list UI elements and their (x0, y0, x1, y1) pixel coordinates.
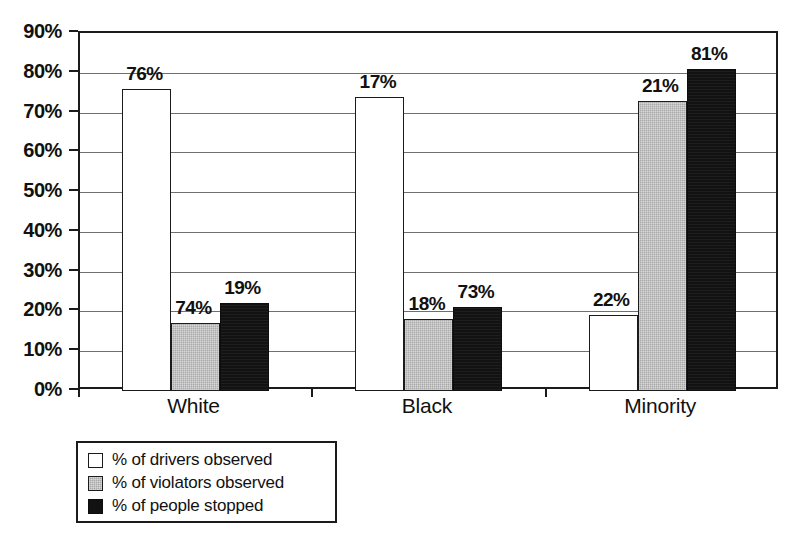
y-tick-mark (69, 110, 78, 112)
y-tick-label: 50% (23, 179, 62, 202)
y-tick-label: 80% (23, 59, 62, 82)
legend-swatch-white-square (88, 453, 103, 468)
bar (220, 303, 269, 391)
bar-value-label: 19% (224, 277, 261, 299)
y-tick-label: 20% (23, 298, 62, 321)
bar-value-label: 81% (691, 43, 728, 65)
legend-item-label: % of drivers observed (112, 450, 272, 470)
y-tick-mark (69, 269, 78, 271)
bar-value-label: 76% (126, 63, 163, 85)
bar (589, 315, 638, 391)
bar (687, 69, 736, 391)
gridline (80, 73, 776, 74)
x-category-label: Minority (624, 394, 696, 418)
y-tick-mark (69, 308, 78, 310)
y-tick-mark (69, 189, 78, 191)
legend-item-label: % of violators observed (112, 473, 284, 493)
bar-value-label: 22% (593, 289, 630, 311)
x-category-label: White (167, 394, 220, 418)
y-tick-mark (69, 388, 78, 390)
x-tick-mark (78, 389, 80, 397)
y-tick-mark (69, 30, 78, 32)
bar-value-label: 21% (642, 75, 679, 97)
bar (122, 89, 171, 391)
y-tick-label: 70% (23, 99, 62, 122)
legend-swatch-black-square (88, 499, 103, 514)
bar (355, 97, 404, 391)
bar-value-label: 73% (458, 281, 495, 303)
y-tick-label: 40% (23, 218, 62, 241)
chart-legend: % of drivers observed % of violators obs… (76, 441, 337, 523)
y-tick-label: 10% (23, 338, 62, 361)
bar (404, 319, 453, 391)
bar (453, 307, 502, 391)
y-tick-label: 60% (23, 139, 62, 162)
y-tick-label: 0% (34, 378, 62, 401)
y-tick-mark (69, 348, 78, 350)
y-tick-mark (69, 149, 78, 151)
bar-value-label: 18% (409, 293, 446, 315)
y-tick-mark (69, 70, 78, 72)
x-category-label: Black (402, 394, 452, 418)
bar-value-label: 17% (360, 71, 397, 93)
legend-item[interactable]: % of violators observed (88, 472, 327, 494)
y-tick-label: 90% (23, 20, 62, 43)
bar (171, 323, 220, 391)
x-tick-mark (311, 389, 313, 397)
bar-chart-figure: 0%10%20%30%40%50%60%70%80%90% WhiteBlack… (0, 0, 793, 552)
x-tick-mark (545, 389, 547, 397)
y-tick-mark (69, 229, 78, 231)
bar-value-label: 74% (175, 297, 212, 319)
legend-item-label: % of people stopped (112, 496, 263, 516)
legend-item[interactable]: % of people stopped (88, 495, 327, 517)
y-axis: 0%10%20%30%40%50%60%70%80%90% (0, 0, 70, 552)
bar (638, 101, 687, 391)
legend-swatch-gray-square (88, 476, 103, 491)
y-tick-label: 30% (23, 258, 62, 281)
legend-item[interactable]: % of drivers observed (88, 449, 327, 471)
